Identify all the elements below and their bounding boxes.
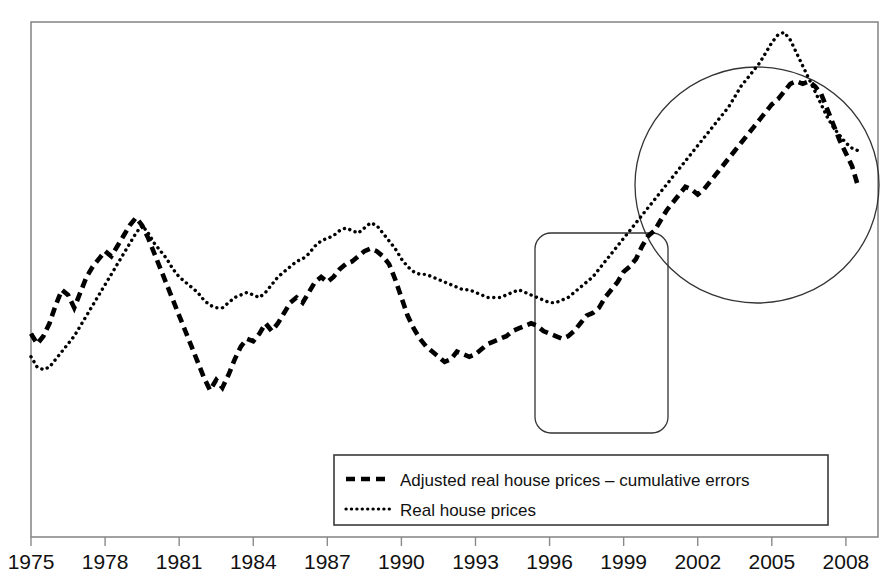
bubble-highlight-circle — [635, 67, 879, 303]
legend-label-adjusted: Adjusted real house prices – cumulative … — [400, 471, 750, 490]
chart-series — [31, 32, 858, 390]
chart-legend: Adjusted real house prices – cumulative … — [334, 455, 828, 525]
x-axis-tick-label-1987: 1987 — [304, 550, 351, 573]
x-axis-tick-label-1990: 1990 — [378, 550, 425, 573]
series-line-real — [31, 32, 858, 369]
x-axis-tick-labels: 1975197819811984198719901993199619992002… — [8, 550, 870, 573]
x-axis-tick-label-1993: 1993 — [452, 550, 499, 573]
x-axis-tick-label-1999: 1999 — [600, 550, 647, 573]
x-axis-tick-label-2005: 2005 — [748, 550, 795, 573]
x-axis-tick-label-1984: 1984 — [230, 550, 277, 573]
transition-highlight-rect — [535, 233, 668, 433]
chart-annotations — [535, 67, 879, 433]
chart-canvas: 1975197819811984198719901993199619992002… — [0, 0, 893, 583]
x-axis-tick-label-1996: 1996 — [526, 550, 573, 573]
x-axis-tick-label-2008: 2008 — [823, 550, 870, 573]
x-axis-ticks — [31, 537, 846, 546]
x-axis-tick-label-1975: 1975 — [8, 550, 55, 573]
legend-label-real: Real house prices — [400, 501, 536, 520]
chart-figure: 1975197819811984198719901993199619992002… — [0, 0, 893, 583]
x-axis-tick-label-2002: 2002 — [674, 550, 721, 573]
x-axis-tick-label-1981: 1981 — [156, 550, 203, 573]
x-axis-tick-label-1978: 1978 — [82, 550, 129, 573]
series-line-adjusted — [31, 81, 858, 390]
